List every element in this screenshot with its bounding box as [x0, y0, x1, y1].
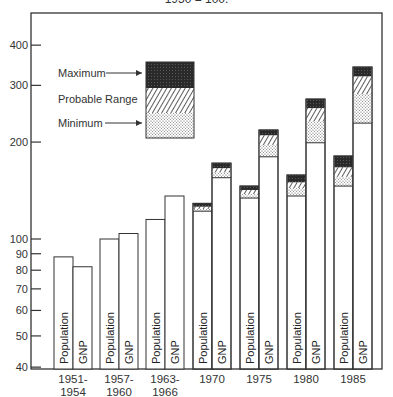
- y-tick-label: 100: [10, 233, 28, 245]
- y-tick: 60: [16, 304, 41, 316]
- legend: MaximumProbable RangeMinimum: [58, 62, 194, 138]
- x-tick-label: 1963-1966: [150, 373, 180, 397]
- legend-minimum-label: Minimum: [58, 117, 103, 129]
- svg-text:1980: 1980: [293, 373, 319, 385]
- minimum-band: [307, 121, 325, 142]
- y-tick-label: 50: [16, 330, 28, 342]
- bar-chart: 405060708090100200300400 PopulationGNPPo…: [0, 0, 393, 397]
- bar-label: GNP: [169, 340, 181, 364]
- bar-population: Population: [100, 239, 119, 369]
- x-tick-label: 1957-1960: [104, 373, 134, 397]
- minimum-band: [260, 145, 278, 157]
- minimum-band: [213, 172, 231, 177]
- bar-gnp: GNP: [165, 196, 184, 369]
- legend-probable-swatch: [146, 88, 194, 113]
- bar-population: Population: [193, 203, 212, 369]
- bar-population: Population: [334, 156, 353, 369]
- maximum-band: [213, 163, 231, 168]
- y-tick: 400: [10, 39, 41, 51]
- svg-text:1960: 1960: [106, 386, 132, 397]
- svg-text:1975: 1975: [246, 373, 272, 385]
- y-axis: 405060708090100200300400: [10, 39, 41, 373]
- y-tick-label: 80: [16, 264, 28, 276]
- svg-text:1963-: 1963-: [150, 373, 180, 385]
- bar-label: Population: [104, 312, 116, 364]
- minimum-band: [288, 188, 306, 196]
- bar-label: GNP: [263, 340, 275, 364]
- bar-gnp: GNP: [119, 234, 138, 369]
- bar-label: Population: [291, 312, 303, 364]
- bar-label: Population: [58, 312, 70, 364]
- x-tick-label: 1975: [246, 373, 272, 385]
- svg-text:1966: 1966: [152, 386, 178, 397]
- y-tick: 100: [10, 233, 41, 245]
- bar-population: Population: [146, 219, 165, 369]
- maximum-band: [288, 175, 306, 182]
- y-tick-label: 60: [16, 304, 28, 316]
- bar-population: Population: [54, 257, 73, 369]
- bar-gnp: GNP: [212, 163, 231, 369]
- y-tick-label: 200: [10, 136, 28, 148]
- y-tick: 300: [10, 79, 41, 91]
- minimum-band: [241, 194, 259, 198]
- maximum-band: [335, 156, 353, 167]
- maximum-band: [354, 67, 372, 76]
- x-tick-label: 1951-1954: [58, 373, 88, 397]
- legend-maximum-label: Maximum: [58, 67, 106, 79]
- bar-label: GNP: [77, 340, 89, 364]
- y-tick: 80: [16, 264, 41, 276]
- x-tick-label: 1970: [199, 373, 225, 385]
- probable-range-band: [288, 182, 306, 188]
- y-tick: 90: [16, 248, 41, 260]
- y-tick-label: 70: [16, 283, 28, 295]
- bar-label: GNP: [310, 340, 322, 364]
- bar-label: GNP: [216, 340, 228, 364]
- probable-range-band: [354, 76, 372, 94]
- probable-range-band: [307, 108, 325, 121]
- probable-range-band: [241, 190, 259, 194]
- x-tick-label: 1980: [293, 373, 319, 385]
- bar-gnp: GNP: [73, 267, 92, 369]
- svg-text:1957-: 1957-: [104, 373, 134, 385]
- y-tick-label: 400: [10, 39, 28, 51]
- bar-label: Population: [197, 312, 209, 364]
- bar-gnp: GNP: [259, 130, 278, 369]
- svg-text:1985: 1985: [340, 373, 366, 385]
- bar-population: Population: [240, 186, 259, 369]
- x-tick-label: 1985: [340, 373, 366, 385]
- x-axis: 1951-19541957-19601963-19661970197519801…: [58, 373, 366, 397]
- bar-label: GNP: [357, 340, 369, 364]
- probable-range-band: [213, 168, 231, 172]
- svg-text:1970: 1970: [199, 373, 225, 385]
- probable-range-band: [260, 135, 278, 145]
- probable-range-band: [335, 167, 353, 177]
- maximum-band: [241, 186, 259, 190]
- probable-range-band: [194, 207, 212, 209]
- bar-label: Population: [244, 312, 256, 364]
- bar-label: Population: [338, 312, 350, 364]
- maximum-band: [307, 99, 325, 108]
- svg-text:1951-: 1951-: [58, 373, 88, 385]
- legend-probable-label: Probable Range: [58, 93, 138, 105]
- legend-maximum-swatch: [146, 62, 194, 88]
- legend-minimum-swatch: [146, 113, 194, 138]
- y-tick-label: 40: [16, 361, 28, 373]
- y-tick: 40: [16, 361, 41, 373]
- bar-gnp: GNP: [306, 99, 325, 369]
- svg-text:1954: 1954: [60, 386, 86, 397]
- y-tick-label: 90: [16, 248, 28, 260]
- bar-label: GNP: [123, 340, 135, 364]
- minimum-band: [335, 177, 353, 186]
- y-tick-label: 300: [10, 79, 28, 91]
- maximum-band: [260, 130, 278, 135]
- bars: PopulationGNPPopulationGNPPopulationGNPP…: [54, 67, 372, 369]
- y-tick: 200: [10, 136, 41, 148]
- bar-gnp: GNP: [353, 67, 372, 369]
- bar-population: Population: [287, 175, 306, 369]
- bar-label: Population: [150, 312, 162, 364]
- y-tick: 70: [16, 283, 41, 295]
- minimum-band: [354, 94, 372, 123]
- y-tick: 50: [16, 330, 41, 342]
